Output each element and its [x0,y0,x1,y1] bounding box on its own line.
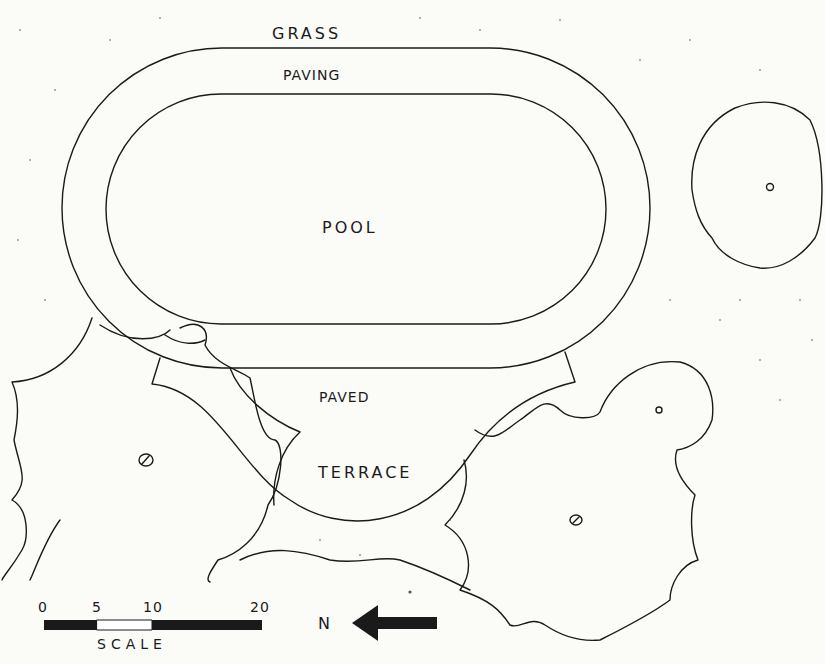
tree-right-top-trunk [767,184,774,191]
paving-outline [62,48,650,368]
terrace-inner-left [230,368,300,505]
pool-outline [106,94,606,324]
terrace-label: TERRACE [318,465,412,481]
north-arrow-icon [352,605,437,641]
tree-bottom-canopy [240,551,470,590]
terrace-outline [152,352,575,521]
tree-right-canopy [445,362,713,641]
paving-label: PAVING [283,68,340,82]
scale-label: SCALE [97,637,167,651]
paved-label: PAVED [319,390,369,404]
tree-right-upper-trunk [656,407,662,413]
site-plan: GRASS PAVING POOL PAVED TERRACE 0 5 10 2… [0,0,825,664]
scale-tick-0: 0 [38,600,48,614]
scale-tick-5: 5 [92,600,102,614]
scale-bar [44,620,262,630]
scale-tick-10: 10 [143,600,163,614]
pool-label: POOL [322,220,378,236]
grass-label: GRASS [272,26,341,42]
tree-right-top-canopy [692,102,822,268]
plan-drawing [0,0,825,664]
north-label: N [318,616,333,632]
scale-tick-20: 20 [250,600,270,614]
